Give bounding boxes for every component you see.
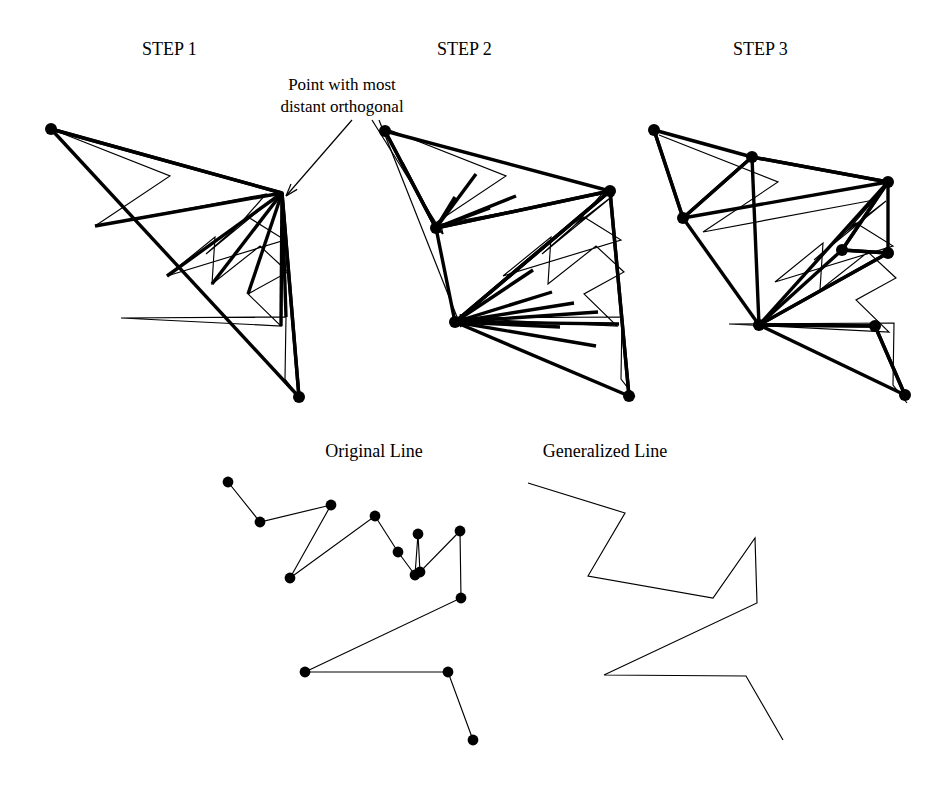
- vertex-marker: [393, 547, 404, 558]
- vertex-marker: [370, 511, 381, 522]
- step-2-vertex-markers: [379, 125, 635, 402]
- original-line-diagram: [223, 477, 479, 746]
- orthogonal-spoke: [436, 191, 610, 228]
- vertex-marker: [449, 316, 461, 328]
- vertex-marker: [836, 244, 848, 256]
- vertex-marker: [753, 319, 765, 331]
- vertex-marker: [899, 389, 911, 401]
- step-2-original-polyline: [387, 129, 635, 397]
- step-2-orthogonal-spokes: [385, 131, 629, 396]
- orthogonal-spoke: [752, 157, 759, 325]
- original-line-vertex-markers: [223, 477, 479, 746]
- vertex-marker: [300, 667, 311, 678]
- annotation-line-2: distant orthogonal: [280, 97, 404, 116]
- vertex-marker: [285, 573, 296, 584]
- step-3-orthogonal-spokes: [654, 130, 905, 395]
- vertex-marker: [882, 176, 894, 188]
- step-2-label: STEP 2: [437, 39, 492, 59]
- step-3-anchor-chain: [654, 130, 905, 395]
- vertex-marker: [326, 500, 337, 511]
- orthogonal-spoke: [455, 322, 629, 396]
- orthogonal-spoke: [212, 193, 282, 284]
- annotation-line-1: Point with most: [288, 75, 396, 94]
- figure-container: STEP 1 STEP 2 STEP 3 Point with most dis…: [0, 0, 945, 792]
- vertex-marker: [430, 222, 442, 234]
- vertex-marker: [677, 212, 689, 224]
- vertex-marker: [869, 320, 881, 332]
- vertex-marker: [455, 526, 466, 537]
- generalized-line-caption: Generalized Line: [543, 441, 667, 461]
- vertex-marker: [379, 125, 391, 137]
- step-1-label: STEP 1: [142, 39, 197, 59]
- orthogonal-spoke: [683, 218, 759, 325]
- vertex-marker: [604, 185, 616, 197]
- vertex-marker: [255, 517, 266, 528]
- step-3-original-polyline: [659, 135, 907, 403]
- vertex-marker: [443, 667, 454, 678]
- vertex-marker: [456, 593, 467, 604]
- step-1-diagram: [45, 123, 305, 403]
- vertex-marker: [468, 735, 479, 746]
- vertex-marker: [413, 529, 424, 540]
- orthogonal-spoke: [759, 325, 905, 395]
- vertex-marker: [882, 247, 894, 259]
- vertex-marker: [623, 390, 635, 402]
- step-3-diagram: [648, 124, 911, 403]
- vertex-marker: [648, 124, 660, 136]
- step-1-baseline: [51, 129, 299, 397]
- generalized-line-polyline: [528, 483, 783, 740]
- vertex-marker: [45, 123, 57, 135]
- step-3-label: STEP 3: [733, 39, 788, 59]
- original-line-caption: Original Line: [325, 441, 422, 461]
- step-2-anchor-chain: [385, 131, 629, 396]
- line-generalization-diagram: STEP 1 STEP 2 STEP 3 Point with most dis…: [0, 0, 945, 792]
- vertex-marker: [415, 567, 426, 578]
- step-2-diagram: [379, 125, 635, 402]
- annotation-arrow: [286, 120, 352, 196]
- generalized-line-diagram: [528, 483, 783, 740]
- orthogonal-spoke: [683, 182, 888, 218]
- orthogonal-spoke: [167, 193, 282, 276]
- vertex-marker: [223, 477, 234, 488]
- vertex-marker: [746, 151, 758, 163]
- vertex-marker: [293, 391, 305, 403]
